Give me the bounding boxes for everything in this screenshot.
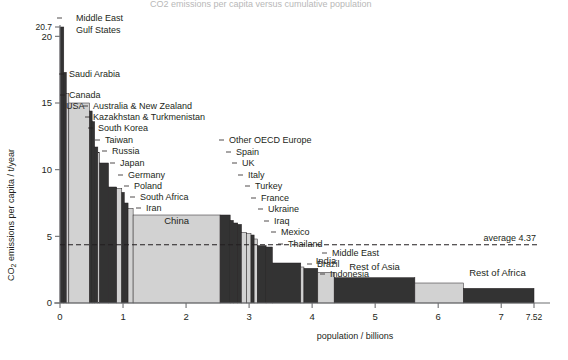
x-axis-tick-label: 0 xyxy=(57,311,62,322)
clipped-figure-title: CO2 emissions per capita versus cumulati… xyxy=(150,0,372,9)
bar-label-iraq: Iraq xyxy=(274,216,290,226)
x-axis-tick-label: 4 xyxy=(309,311,314,322)
bar-rest-of-asia xyxy=(334,278,415,303)
bar-label-ukraine: Ukraine xyxy=(268,204,299,214)
bar-indonesia xyxy=(304,268,318,303)
bar-uk xyxy=(233,223,237,303)
bar-brazil xyxy=(301,267,304,303)
bar-label-middle-east: Middle East xyxy=(76,13,124,23)
bar-label-other-oecd-europe: Other OECD Europe xyxy=(229,135,312,145)
bar-poland xyxy=(122,192,125,303)
x-axis-tick-label: 7.52 xyxy=(526,312,543,322)
bar-label-south-korea: South Korea xyxy=(98,123,148,133)
y-axis-tick-label: 5 xyxy=(47,231,52,242)
bar-usa xyxy=(69,103,90,303)
y-axis-title: CO2 emissions per capita / t/year xyxy=(6,149,17,281)
y-axis-tick-label: 20.7 xyxy=(35,22,52,32)
y-axis-tick-label: 10 xyxy=(41,164,52,175)
bar-russia xyxy=(100,163,109,303)
bar-kazakhstan-turkmenistan xyxy=(92,122,95,303)
bar-label-gulf-states: Gulf States xyxy=(76,25,121,35)
bar-mexico xyxy=(257,246,266,303)
bar-label-spain: Spain xyxy=(236,147,259,157)
x-axis-tick-label: 1 xyxy=(120,311,125,322)
bar-australia-new-zealand xyxy=(90,111,93,303)
bar-iran xyxy=(128,208,133,303)
x-axis-tick-label: 2 xyxy=(183,311,188,322)
bar-label-usa: USA xyxy=(66,101,85,111)
bar-label-rest-of-africa: Rest of Africa xyxy=(469,267,526,278)
bar-label-germany: Germany xyxy=(128,170,166,180)
x-axis-tick-label: 7 xyxy=(499,311,504,322)
bar-turkey xyxy=(242,232,247,303)
bar-iraq xyxy=(254,239,257,303)
bar-label-japan: Japan xyxy=(120,158,145,168)
bar-label-australia-new-zealand: Australia & New Zealand xyxy=(93,101,192,111)
bar-label-italy: Italy xyxy=(248,170,265,180)
chart-figure: CO2 emissions per capita versus cumulati… xyxy=(0,0,568,360)
bar-china xyxy=(133,215,220,303)
bar-thailand xyxy=(266,247,272,303)
bar-label-kazakhstan-turkmenistan: Kazakhstan & Turkmenistan xyxy=(93,112,205,122)
bar-spain xyxy=(230,220,233,303)
x-axis-tick-label: 6 xyxy=(436,311,441,322)
bar-label-uk: UK xyxy=(242,158,255,168)
bar-label-france: France xyxy=(261,193,289,203)
bar-rest-of-africa-tail xyxy=(463,288,534,303)
x-axis-tick-label: 5 xyxy=(373,311,378,322)
bar-taiwan xyxy=(98,152,100,303)
bar-label-middle-east: Middle East xyxy=(332,248,380,258)
bar-south-korea xyxy=(95,147,98,303)
bar-label-iran: Iran xyxy=(146,203,162,213)
x-axis-tick-label: 3 xyxy=(246,311,251,322)
bar-label-south-africa: South Africa xyxy=(140,192,189,202)
average-label: average 4.37 xyxy=(483,233,536,243)
bar-middle-east xyxy=(272,263,300,303)
y-axis-tick-label: 15 xyxy=(41,97,52,108)
bar-canada xyxy=(66,94,69,303)
bar-label-saudi-arabia: Saudi Arabia xyxy=(69,69,120,79)
bar-label-russia: Russia xyxy=(112,146,140,156)
bar-label-china: China xyxy=(164,215,190,226)
bar-italy xyxy=(238,224,242,303)
bar-south-africa xyxy=(124,203,128,303)
bar-other-oecd-europe xyxy=(220,215,230,303)
x-axis-title: population / billions xyxy=(317,331,394,341)
bar-label-india: India xyxy=(316,255,337,266)
bar-label-poland: Poland xyxy=(134,181,162,191)
bar-germany xyxy=(117,188,122,303)
y-axis-tick-label: 0 xyxy=(47,297,52,308)
bar-france xyxy=(247,234,251,303)
bar-label-rest-of-asia: Rest of Asia xyxy=(349,261,400,272)
bar-rest-of-africa xyxy=(415,283,464,303)
bar-middle-east-gulf-states xyxy=(60,27,64,303)
co2-population-chart: CO2 emissions per capita versus cumulati… xyxy=(0,0,568,360)
bar-label-canada: Canada xyxy=(69,90,101,100)
bar-label-taiwan: Taiwan xyxy=(105,135,133,145)
bar-label-thailand: Thailand xyxy=(288,239,323,249)
bar-label-mexico: Mexico xyxy=(281,227,310,237)
bar-label-turkey: Turkey xyxy=(255,181,283,191)
